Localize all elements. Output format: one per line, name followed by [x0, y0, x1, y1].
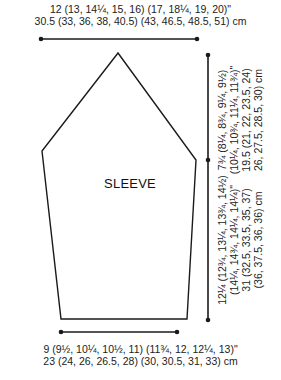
cap-height-inches-2: (10¼, 10¾, 11¼, 11¾)" — [228, 55, 240, 185]
bottom-width-label: 9 (9½, 10¼, 10½, 11) (11¾, 12, 12¼, 13)"… — [0, 343, 281, 367]
body-length-label: 12¼ (12¾, 13¼, 13¾, 14½) (14¼, 14¾, 14¼,… — [216, 175, 264, 305]
top-width-cm: 30.5 (33, 36, 38, 40.5) (43, 46.5, 48.5,… — [0, 15, 281, 27]
bottom-width-cm: 23 (24, 26, 26.5, 28) (30, 30.5, 31, 33)… — [0, 355, 281, 367]
bottom-width-dimension-line — [59, 330, 180, 335]
cap-height-inches-1: 7¾ (8¼, 8¾, 9¼, 9½) — [216, 55, 228, 185]
body-length-cm-1: 31 (32.5, 33.5, 35, 37) — [240, 175, 252, 305]
cap-height-cm-1: 19.5 (21, 22, 23.5, 24) — [240, 55, 252, 185]
top-width-label: 12 (13, 14¼, 15, 16) (17, 18¼, 19, 20)" … — [0, 3, 281, 27]
body-length-inches-2: (14¼, 14¾, 14¼, 14¼)" — [228, 175, 240, 305]
top-width-inches: 12 (13, 14¼, 15, 16) (17, 18¼, 19, 20)" — [0, 3, 281, 15]
top-width-dimension-line — [39, 37, 200, 42]
sleeve-title: SLEEVE — [90, 176, 170, 191]
bottom-width-inches: 9 (9½, 10¼, 10½, 11) (11¾, 12, 12¼, 13)" — [0, 343, 281, 355]
body-length-inches-1: 12¼ (12¾, 13¼, 13¾, 14½) — [216, 175, 228, 305]
body-length-cm-2: (36, 37.5, 36, 36) cm — [252, 175, 264, 305]
cap-height-label: 7¾ (8¼, 8¾, 9¼, 9½) (10¼, 10¾, 11¼, 11¾)… — [216, 55, 264, 185]
height-dimension-line — [206, 53, 211, 323]
cap-height-cm-2: 26, 27.5, 28.5, 30) cm — [252, 55, 264, 185]
